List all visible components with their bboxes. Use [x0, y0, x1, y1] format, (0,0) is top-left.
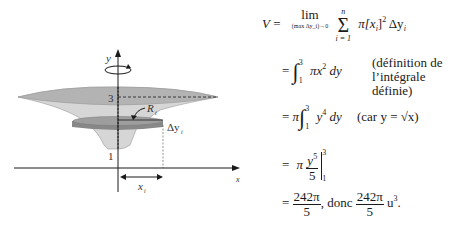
- x-axis-arrow-icon: [232, 165, 240, 171]
- denominator: 5: [306, 168, 318, 183]
- xi-sub: i: [144, 188, 146, 194]
- equals-sign: =: [282, 109, 289, 124]
- y-axis-label: y: [105, 52, 111, 64]
- note-line-2: l’intégrale définie): [372, 70, 465, 98]
- integrand-pow: 2: [322, 62, 326, 71]
- fraction: y5 5: [306, 150, 318, 183]
- y-axis-arrow-icon: [115, 49, 121, 57]
- numerator-pow: 5: [313, 152, 317, 161]
- differential: dy: [329, 63, 341, 78]
- result-numerator: 242π: [293, 190, 321, 205]
- donc-text: , donc: [321, 195, 353, 210]
- integrand: πx: [310, 63, 322, 78]
- integrand-pow: 4: [322, 108, 326, 117]
- xi-left-arrowhead-icon: [120, 174, 126, 180]
- term: π[x: [358, 16, 375, 31]
- radius-label: R: [146, 102, 154, 114]
- equation-line-1: V = lim (max Δy_i)→0 n Σ i = 1 π[xi]2 Δy…: [262, 8, 406, 43]
- sigma-icon: Σ: [335, 16, 351, 34]
- final-fraction: 242π 5: [356, 190, 384, 219]
- definition-note: (définition de l’intégrale définie): [372, 56, 465, 98]
- note-line-1: (définition de: [372, 56, 465, 70]
- equation-line-3: = π∫31 y4 dy (car y = √x): [282, 104, 419, 131]
- lim-text: lim: [292, 8, 328, 22]
- xi-label: x: [137, 180, 143, 192]
- final-numerator: 242π: [356, 190, 384, 205]
- int-lower: 1: [299, 76, 303, 85]
- term-pow: 2: [382, 15, 386, 24]
- substitution-note: (car y = √x): [357, 109, 419, 124]
- result-denominator: 5: [293, 205, 321, 219]
- tick-3: 3: [108, 92, 114, 104]
- equals-sign: =: [282, 63, 289, 78]
- equals-sign: =: [282, 157, 289, 172]
- int-lower: 1: [305, 122, 309, 131]
- differential: dy: [329, 109, 341, 124]
- equals-sign: =: [273, 16, 280, 31]
- equation-line-5: = 242π 5 , donc 242π 5 u3.: [282, 190, 401, 219]
- int-upper: 3: [305, 104, 309, 113]
- delta-y: Δy: [389, 16, 404, 31]
- x-axis-label: x: [235, 175, 240, 184]
- lim-subscript: (max Δy_i)→0: [292, 22, 328, 30]
- delta-y-sub: i: [404, 24, 406, 33]
- thickness-sub: i: [181, 129, 183, 135]
- eval-lower: 1: [322, 174, 326, 183]
- equals-sign: =: [282, 195, 289, 210]
- equation-line-2: = ∫31 πx2 dy: [282, 58, 342, 85]
- int-upper: 3: [299, 58, 303, 67]
- result-fraction: 242π 5: [293, 190, 321, 219]
- pi-factor: π: [297, 157, 304, 172]
- xi-right-arrowhead-icon: [157, 174, 163, 180]
- solid-of-revolution-figure: y x 3 1 R i Δy i x i: [0, 0, 240, 243]
- equation-line-4: = π y5 5 31: [282, 148, 326, 183]
- sum-lower: i = 1: [335, 34, 351, 43]
- eval-upper: 3: [322, 148, 326, 157]
- final-denominator: 5: [356, 205, 384, 219]
- period: .: [398, 195, 401, 210]
- thickness-label: Δy: [167, 121, 180, 133]
- limit-operator: lim (max Δy_i)→0: [292, 8, 328, 30]
- summation: n Σ i = 1: [335, 8, 351, 43]
- volume-symbol: V: [262, 16, 270, 31]
- tick-1: 1: [108, 150, 114, 162]
